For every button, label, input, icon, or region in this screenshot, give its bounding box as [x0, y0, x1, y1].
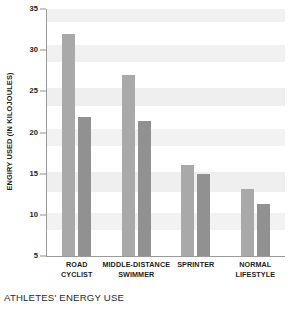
- bar: [122, 75, 135, 256]
- y-axis-tick-mark: [40, 173, 46, 174]
- y-axis-tick-mark: [40, 50, 46, 51]
- y-axis-tick-labels: 3530252015105: [18, 0, 40, 262]
- plot-area: [47, 9, 285, 256]
- bar: [138, 121, 151, 256]
- y-axis-tick-label: 15: [30, 170, 38, 178]
- y-axis-title-text: ENGIRY USED (IN KILOJOULES): [5, 72, 14, 190]
- chart-figure: ENGIRY USED (IN KILOJOULES) 353025201510…: [0, 0, 289, 310]
- bar: [181, 165, 194, 256]
- x-axis-category-label-line: SWIMMER: [100, 270, 174, 280]
- bar: [241, 189, 254, 257]
- y-axis-tick-mark: [40, 214, 46, 215]
- y-axis-tick-label: 35: [30, 5, 38, 13]
- y-axis-tick-label: 20: [30, 129, 38, 137]
- bar: [62, 34, 75, 256]
- y-axis-tick-mark: [40, 91, 46, 92]
- y-axis-tick-label: 30: [30, 46, 38, 54]
- x-axis-category-label-line: NORMAL: [219, 260, 290, 270]
- bar: [78, 117, 91, 256]
- y-axis-title: ENGIRY USED (IN KILOJOULES): [2, 0, 16, 262]
- y-axis-tick-mark: [40, 9, 46, 10]
- bar: [257, 204, 270, 256]
- y-axis-tick-label: 10: [30, 211, 38, 219]
- x-axis-line: [46, 256, 285, 257]
- y-axis-tick-mark: [40, 256, 46, 257]
- chart-caption: ATHLETES' ENERGY USE: [4, 292, 124, 303]
- y-axis-tick-label: 25: [30, 88, 38, 96]
- bar: [197, 174, 210, 256]
- bars-layer: [47, 9, 285, 256]
- x-axis-category-labels: ROADCYCLISTMIDDLE-DISTANCESWIMMERSPRINTE…: [47, 260, 285, 286]
- y-axis-tick-mark: [40, 132, 46, 133]
- x-axis-category-label-line: LIFESTYLE: [219, 270, 290, 280]
- x-axis-category-label: NORMALLIFESTYLE: [219, 260, 290, 279]
- y-axis-tick-label: 5: [34, 252, 38, 260]
